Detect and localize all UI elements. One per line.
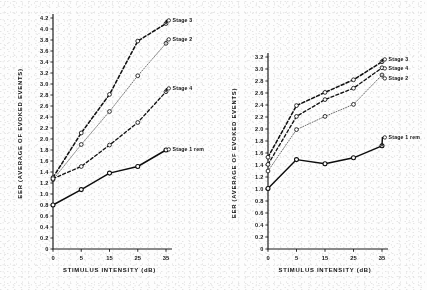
data-point-stage-4-5 bbox=[295, 115, 299, 119]
y-axis-tick-label: 0.4 bbox=[40, 224, 49, 230]
data-point-stage-4-25 bbox=[136, 121, 140, 125]
series-label-marker-stage-1-rem bbox=[167, 148, 170, 151]
series-label-stage-2: Stage 2 bbox=[389, 75, 409, 81]
y-axis-tick-label: 0.2 bbox=[40, 235, 48, 241]
y-axis-tick-label: 2.4 bbox=[255, 102, 264, 108]
series-label-marker-stage-3 bbox=[167, 19, 170, 22]
chart-panel-right: 3.23.02.82.62.42.22.01.81.61.41.21.00.80… bbox=[214, 0, 427, 290]
y-axis-tick-label: 1.6 bbox=[255, 150, 263, 156]
y-axis-tick-label: 2.8 bbox=[255, 78, 263, 84]
x-axis-tick-label: 35 bbox=[163, 255, 170, 261]
x-axis-tick-label: 25 bbox=[135, 255, 142, 261]
data-point-stage-1-rem-15 bbox=[108, 171, 112, 175]
data-point-stage-3-25 bbox=[352, 78, 356, 82]
data-point-stage-1-rem-25 bbox=[136, 165, 140, 169]
chart-left-canvas: 4.24.03.83.63.43.23.02.82.62.42.22.01.81… bbox=[0, 0, 214, 290]
y-axis-tick-label: 0.8 bbox=[255, 198, 263, 204]
series-label-marker-stage-4 bbox=[167, 87, 170, 90]
x-axis-title: STIMULUS INTENSITY (dB) bbox=[63, 267, 156, 273]
y-axis-tick-label: 2.0 bbox=[40, 136, 48, 142]
series-label-marker-stage-2 bbox=[167, 38, 170, 41]
y-axis-tick-label: 4.0 bbox=[40, 26, 48, 32]
series-label-marker-stage-4 bbox=[383, 67, 386, 70]
data-point-stage-3-25 bbox=[136, 39, 140, 43]
x-axis-tick-label: 35 bbox=[379, 255, 386, 261]
data-point-stage-2-0 bbox=[266, 169, 270, 173]
y-axis-title: EER (AVERAGE OF EVOKED EVENTS) bbox=[231, 88, 237, 218]
y-axis-tick-label: 2.8 bbox=[40, 92, 48, 98]
series-line-stage-4 bbox=[53, 92, 166, 179]
data-point-stage-2-15 bbox=[323, 115, 327, 119]
data-point-stage-4-15 bbox=[323, 98, 327, 102]
y-axis-tick-label: 1.4 bbox=[40, 169, 49, 175]
y-axis-tick-label: 3.2 bbox=[255, 54, 263, 60]
series-label-marker-stage-2 bbox=[383, 77, 386, 80]
chart-panel-left: 4.24.03.83.63.43.23.02.82.62.42.22.01.81… bbox=[0, 0, 214, 290]
data-point-stage-3-0 bbox=[266, 155, 270, 159]
x-axis-tick-label: 25 bbox=[350, 255, 357, 261]
data-point-stage-1-rem-0 bbox=[266, 186, 270, 190]
y-axis-tick-label: 1.8 bbox=[40, 147, 48, 153]
y-axis-tick-label: 0 bbox=[45, 246, 48, 252]
data-point-stage-4-0 bbox=[266, 163, 270, 167]
y-axis-tick-label: 0.4 bbox=[255, 222, 264, 228]
x-axis-tick-label: 5 bbox=[80, 255, 84, 261]
y-axis-tick-label: 1.2 bbox=[40, 180, 48, 186]
series-label-stage-2: Stage 2 bbox=[173, 36, 193, 42]
series-line-stage-1-rem bbox=[268, 146, 382, 189]
data-point-stage-2-5 bbox=[295, 128, 299, 132]
data-point-stage-1-rem-25 bbox=[352, 156, 356, 160]
y-axis-tick-label: 3.6 bbox=[40, 48, 48, 54]
y-axis-tick-label: 4.2 bbox=[40, 15, 48, 21]
y-axis-tick-label: 1.4 bbox=[255, 162, 264, 168]
series-label-marker-stage-1-rem bbox=[383, 136, 386, 139]
data-point-stage-2-5 bbox=[79, 143, 83, 147]
series-label-stage-4: Stage 4 bbox=[389, 65, 409, 71]
data-point-stage-2-25 bbox=[136, 74, 140, 78]
y-axis-tick-label: 0.6 bbox=[40, 213, 48, 219]
series-label-stage-4: Stage 4 bbox=[173, 85, 193, 91]
data-point-stage-1-rem-5 bbox=[295, 158, 299, 162]
data-point-stage-3-5 bbox=[79, 131, 83, 135]
series-line-stage-3 bbox=[268, 62, 382, 157]
y-axis-tick-label: 2.4 bbox=[40, 114, 49, 120]
x-axis-tick-label: 0 bbox=[51, 255, 54, 261]
y-axis-tick-label: 3.2 bbox=[40, 70, 48, 76]
y-axis-title: EER (AVERAGE OF EVOKED EVENTS) bbox=[17, 68, 23, 198]
y-axis-tick-label: 1.0 bbox=[40, 191, 48, 197]
y-axis-tick-label: 0.8 bbox=[40, 202, 48, 208]
x-axis-tick-label: 15 bbox=[106, 255, 113, 261]
chart-right-canvas: 3.23.02.82.62.42.22.01.81.61.41.21.00.80… bbox=[214, 0, 427, 290]
data-point-stage-2-15 bbox=[108, 110, 112, 114]
y-axis-tick-label: 2.2 bbox=[40, 125, 48, 131]
y-axis-tick-label: 1.8 bbox=[255, 138, 263, 144]
y-axis-tick-label: 1.0 bbox=[255, 186, 263, 192]
data-point-stage-1-rem-15 bbox=[323, 162, 327, 166]
data-point-stage-4-5 bbox=[79, 165, 83, 169]
y-axis-tick-label: 3.0 bbox=[255, 66, 263, 72]
data-point-stage-1-rem-5 bbox=[79, 188, 83, 192]
x-axis-tick-label: 15 bbox=[322, 255, 329, 261]
y-axis-tick-label: 1.2 bbox=[255, 174, 263, 180]
data-point-stage-3-15 bbox=[108, 93, 112, 97]
figure-container: 4.24.03.83.63.43.23.02.82.62.42.22.01.81… bbox=[0, 0, 427, 290]
series-label-stage-3: Stage 3 bbox=[173, 17, 193, 23]
series-label-marker-stage-3 bbox=[383, 58, 386, 61]
series-label-stage-3: Stage 3 bbox=[389, 56, 409, 62]
data-point-stage-2-25 bbox=[352, 103, 356, 107]
series-label-stage-1-rem: Stage 1 rem bbox=[389, 134, 421, 140]
series-line-stage-2 bbox=[268, 75, 382, 171]
data-point-stage-3-5 bbox=[295, 104, 299, 108]
y-axis-tick-label: 3.4 bbox=[40, 59, 49, 65]
series-line-stage-3 bbox=[53, 24, 166, 178]
data-point-stage-1-rem-0 bbox=[51, 203, 55, 207]
series-label-stage-1-rem: Stage 1 rem bbox=[173, 146, 205, 152]
y-axis-tick-label: 2.6 bbox=[255, 90, 263, 96]
y-axis-tick-label: 2.6 bbox=[40, 103, 48, 109]
data-point-stage-4-0 bbox=[51, 177, 55, 181]
y-axis-tick-label: 3.0 bbox=[40, 81, 48, 87]
chart-axes bbox=[53, 14, 172, 249]
y-axis-tick-label: 0.6 bbox=[255, 210, 263, 216]
y-axis-tick-label: 0.2 bbox=[255, 234, 263, 240]
x-axis-title: STIMULUS INTENSITY (dB) bbox=[278, 267, 371, 273]
